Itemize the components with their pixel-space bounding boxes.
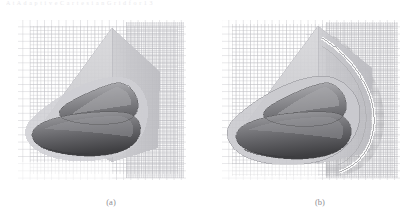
- figure-panel-a: [8, 12, 198, 188]
- panel-a-canvas: [8, 12, 198, 188]
- panel-b-canvas: [214, 12, 410, 188]
- figure-root: A t A d a p t i v e C a r t e s i a n G …: [0, 0, 415, 219]
- panel-b-caption: (b): [252, 195, 388, 209]
- top-running-text: A t A d a p t i v e C a r t e s i a n G …: [6, 0, 226, 7]
- panel-a-lower-blank: [18, 162, 112, 180]
- figure-panel-b: [214, 12, 410, 188]
- panel-b-lower-blank: [222, 164, 318, 180]
- panel-a-caption: (a): [43, 195, 179, 209]
